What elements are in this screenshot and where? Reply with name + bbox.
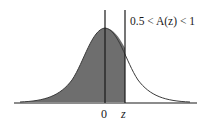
zero-label: 0 xyxy=(101,107,107,121)
normal-curve-diagram: 0 z 0.5 < A(z) < 1 xyxy=(0,0,209,124)
shaded-area xyxy=(20,28,125,102)
z-label: z xyxy=(120,107,126,121)
area-annotation: 0.5 < A(z) < 1 xyxy=(130,15,195,28)
